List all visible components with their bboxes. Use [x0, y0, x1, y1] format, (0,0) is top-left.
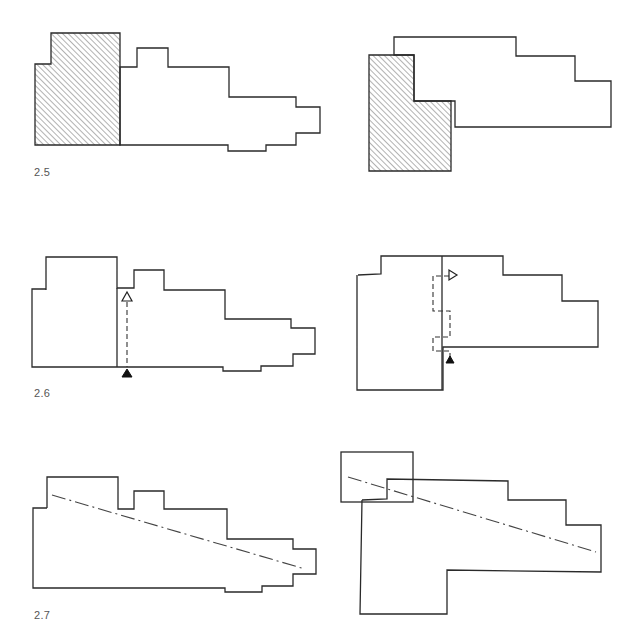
- figure-label-2-5: 2.5: [34, 166, 50, 178]
- plan-2-7-right-outline: [360, 479, 601, 614]
- plan-2-7-right: [341, 452, 601, 614]
- solid-triangle-marker-icon: [446, 356, 454, 363]
- open-triangle-marker-icon: [122, 292, 132, 301]
- plan-2-6-left-outline: [32, 257, 315, 371]
- plan-2-7-left-outline: [33, 477, 316, 592]
- diagram-canvas: [0, 0, 639, 641]
- plan-2-5-left-hatched-block: [35, 33, 120, 145]
- plan-2-7-right-axis-line: [348, 477, 596, 552]
- figure-label-2-6: 2.6: [34, 387, 50, 399]
- plan-2-7-right-overlay-box: [341, 452, 413, 502]
- plan-2-7-left: [33, 477, 316, 592]
- plan-2-7-left-axis-line: [52, 495, 305, 569]
- plan-2-6-right-outline: [357, 256, 598, 390]
- plan-2-6-right: [357, 256, 598, 390]
- plan-2-5-left-main-volume: [120, 48, 320, 151]
- figure-label-2-7: 2.7: [34, 609, 50, 621]
- solid-triangle-marker-icon: [122, 369, 132, 377]
- open-triangle-marker-icon: [449, 270, 457, 280]
- plan-2-5-left: [35, 33, 320, 151]
- plan-2-6-left: [32, 257, 315, 377]
- plan-2-5-right: [369, 37, 611, 171]
